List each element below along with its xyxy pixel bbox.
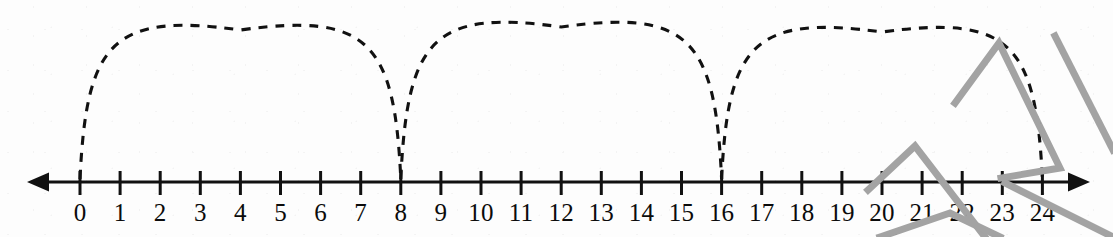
gray-caret-upper (955, 43, 1060, 178)
gray-annotation-layer (0, 0, 1113, 237)
number-line-figure: 0123456789101112131415161718192021222324 (0, 0, 1113, 237)
gray-stroke-right (1055, 36, 1113, 150)
gray-stroke-diagonal (1005, 183, 1113, 237)
